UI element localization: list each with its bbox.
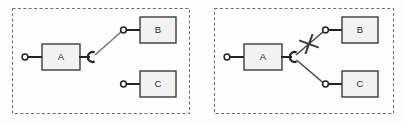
right-a-label: A <box>260 51 267 62</box>
diagram-canvas: A B C <box>0 0 404 124</box>
right-a-provided-ball-icon <box>224 54 230 60</box>
right-b-provided-ball-icon <box>323 27 329 33</box>
left-c-provided-ball-icon <box>121 81 127 87</box>
broken-link-x-icon <box>296 31 323 58</box>
left-c-label: C <box>154 78 161 89</box>
left-link-a-to-b[interactable] <box>95 32 122 56</box>
right-component-b[interactable]: B <box>323 17 378 43</box>
right-b-label: B <box>357 24 364 35</box>
left-component-a[interactable]: A <box>22 44 95 70</box>
component-assembly-diagram: A B C <box>0 0 404 124</box>
right-a-required-socket-icon <box>290 52 297 62</box>
left-b-provided-ball-icon <box>121 27 127 33</box>
right-c-provided-ball-icon <box>323 81 329 87</box>
left-a-label: A <box>58 51 65 62</box>
right-component-a[interactable]: A <box>224 44 297 70</box>
right-link-a-to-c[interactable] <box>297 60 324 83</box>
left-panel: A B C <box>13 9 190 114</box>
left-a-provided-ball-icon <box>22 54 28 60</box>
left-b-label: B <box>155 24 162 35</box>
left-component-b[interactable]: B <box>121 17 176 43</box>
left-a-required-socket-icon <box>88 52 95 62</box>
right-panel: A B <box>215 9 394 114</box>
left-component-c[interactable]: C <box>121 71 176 97</box>
right-c-label: C <box>356 78 363 89</box>
right-component-c[interactable]: C <box>323 71 378 97</box>
